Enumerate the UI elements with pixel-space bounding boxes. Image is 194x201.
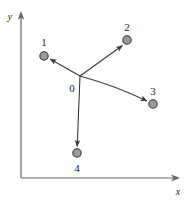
node-marker-3[interactable]: [149, 100, 157, 108]
y-axis-label: y: [8, 12, 12, 22]
node-marker-2[interactable]: [123, 36, 131, 44]
edge-0-to-2: [80, 46, 123, 77]
node-label-2: 2: [124, 22, 130, 33]
node-marker-group: [40, 36, 157, 157]
edge-group: [50, 46, 147, 147]
edge-0-to-3: [80, 76, 147, 101]
node-label-1: 1: [41, 37, 47, 48]
node-label-0: 0: [69, 83, 75, 94]
node-marker-1[interactable]: [40, 52, 48, 60]
edge-0-to-1: [50, 59, 80, 76]
edge-0-to-4: [77, 76, 80, 147]
node-label-3: 3: [150, 86, 156, 97]
x-axis-label: x: [176, 187, 180, 197]
node-label-4: 4: [74, 163, 80, 174]
vector-diagram-figure: 0 1 2 3 4 y x: [0, 0, 194, 201]
diagram-canvas: [0, 0, 194, 201]
node-marker-4[interactable]: [73, 149, 81, 157]
